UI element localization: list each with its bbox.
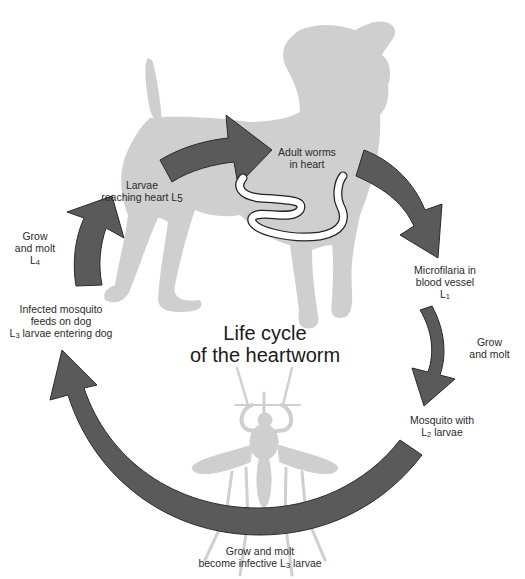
label-adult-worms: Adult worms in heart (272, 146, 342, 170)
label-line: L3 larvae entering dog (2, 327, 120, 339)
label-line: Larvae (100, 179, 184, 191)
diagram-title: Life cycle of the heartworm (190, 322, 340, 366)
label-line: Grow and molt (180, 545, 340, 557)
title-line-1: Life cycle (190, 322, 340, 344)
label-line: Infected mosquito (2, 303, 120, 315)
label-grow-molt-right: Grow and molt (462, 336, 517, 360)
label-line: L2 larvae (392, 426, 492, 438)
label-infected-mosquito: Infected mosquito feeds on dog L3 larvae… (2, 303, 120, 339)
label-line: Microfilaria in (400, 264, 490, 276)
label-line: in heart (272, 158, 342, 170)
arrow-to-mosquito (412, 306, 455, 406)
arrow-grow-l4 (67, 196, 124, 286)
title-line-2: of the heartworm (190, 344, 340, 366)
arrow-mosquito-to-dog (50, 350, 422, 535)
label-line: reaching heart L5 (100, 191, 184, 203)
label-line: become infective L3 larvae (180, 557, 340, 569)
label-line: and molt (462, 348, 517, 360)
label-line: Adult worms (272, 146, 342, 158)
label-line: L4 (12, 254, 58, 266)
label-line: Mosquito with (392, 414, 492, 426)
label-grow-molt-infective: Grow and molt become infective L3 larvae (180, 545, 340, 569)
label-mosquito-l2: Mosquito with L2 larvae (392, 414, 492, 438)
dog-silhouette (104, 22, 395, 329)
label-line: Grow (462, 336, 517, 348)
label-line: and molt (12, 242, 58, 254)
arrow-to-blood-vessel (356, 150, 442, 258)
label-line: blood vessel (400, 276, 490, 288)
label-line: L1 (400, 288, 490, 300)
label-microfilaria: Microfilaria in blood vessel L1 (400, 264, 490, 300)
heartworm-life-cycle-diagram: Life cycle of the heartworm Adult worms … (0, 0, 525, 579)
label-line: Grow (12, 230, 58, 242)
label-larvae-heart: Larvae reaching heart L5 (100, 179, 184, 203)
label-line: feeds on dog (2, 315, 120, 327)
label-grow-molt-l4: Grow and molt L4 (12, 230, 58, 266)
mosquito-silhouette (192, 368, 338, 575)
